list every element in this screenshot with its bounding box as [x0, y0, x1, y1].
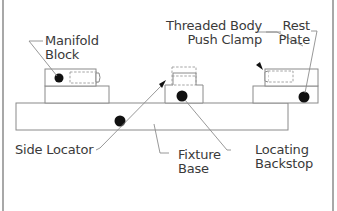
label-fixture-base-line1: Fixture — [178, 148, 221, 162]
label-threaded-body-push-clamp: Threaded Body Push Clamp — [125, 19, 262, 47]
label-manifold-block-line2: Block — [45, 48, 99, 62]
label-locating-backstop-line2: Backstop — [255, 157, 313, 171]
label-side-locator-line1: Side Locator — [15, 143, 93, 157]
fixture-base-pin — [115, 116, 126, 127]
label-rest-plate-line1: Rest — [270, 19, 310, 33]
label-side-locator: Side Locator — [15, 143, 93, 157]
label-fixture-base: Fixture Base — [178, 148, 221, 176]
locating-backstop-pin — [177, 91, 188, 102]
label-rest-plate-line2: Plate — [270, 33, 310, 47]
label-push-clamp-line1: Threaded Body — [125, 19, 262, 33]
label-push-clamp-line2: Push Clamp — [125, 33, 262, 47]
arrowhead-push-clamp — [256, 62, 263, 70]
label-manifold-block: Manifold Block — [45, 34, 99, 62]
label-locating-backstop-line1: Locating — [255, 143, 313, 157]
manifold-clamp-cap — [96, 73, 100, 82]
rest-plate-upper — [265, 69, 318, 86]
rest-plate-pin — [299, 92, 310, 103]
label-locating-backstop: Locating Backstop — [255, 143, 313, 171]
fixture-base-shape — [16, 103, 288, 130]
label-rest-plate: Rest Plate — [270, 19, 310, 47]
label-manifold-block-line1: Manifold — [45, 34, 99, 48]
rest-plate-clamp-cap — [265, 71, 268, 82]
manifold-lower-block — [45, 86, 109, 103]
label-fixture-base-line2: Base — [178, 162, 221, 176]
